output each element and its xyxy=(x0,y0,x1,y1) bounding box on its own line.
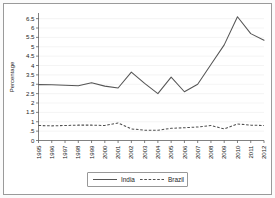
x-axis-ticks-group: 1995199619971998199920002001200220032004… xyxy=(35,141,268,160)
x-tick-label: 2012 xyxy=(260,145,267,159)
legend-label-india: India xyxy=(121,176,135,183)
x-tick-label: 2007 xyxy=(194,145,201,159)
y-tick-label: 6 xyxy=(31,24,35,31)
x-tick-label: 2004 xyxy=(154,145,161,159)
gridlines-group xyxy=(39,19,265,132)
y-tick-label: 5 xyxy=(31,43,35,50)
y-tick-label: 5.5 xyxy=(26,33,35,40)
y-tick-label: 4 xyxy=(31,62,35,69)
chart-legend: India Brazil xyxy=(88,173,188,187)
y-axis-ticks-group: 0.511.522.533.544.555.566.5 xyxy=(26,15,38,144)
x-tick-label: 2002 xyxy=(127,145,134,159)
series-line-india xyxy=(39,17,265,94)
x-tick-label: 2009 xyxy=(220,145,227,159)
series-line-brazil xyxy=(39,123,265,130)
x-tick-label: 1995 xyxy=(35,145,42,159)
x-tick-label: 2005 xyxy=(167,145,174,159)
x-tick-label: 2000 xyxy=(101,145,108,159)
x-tick-label: 1997 xyxy=(61,145,68,159)
y-tick-label: 4.5 xyxy=(26,52,35,59)
x-tick-label: 2001 xyxy=(114,145,121,159)
x-tick-label: 2008 xyxy=(207,145,214,159)
y-tick-label: 1 xyxy=(31,118,35,125)
y-tick-label: 2.5 xyxy=(26,90,35,97)
y-axis-title: Percentage xyxy=(9,61,15,92)
y-tick-label: 1.5 xyxy=(26,108,35,115)
x-tick-label: 2011 xyxy=(247,145,254,159)
legend-label-brazil: Brazil xyxy=(168,176,184,183)
x-tick-label: 2010 xyxy=(234,145,241,159)
x-tick-label: 2003 xyxy=(141,145,148,159)
line-chart: 0.511.522.533.544.555.566.5 199519961997… xyxy=(0,0,275,198)
y-tick-label: 3.5 xyxy=(26,71,35,78)
x-tick-label: 1999 xyxy=(88,145,95,159)
y-tick-label: .5 xyxy=(29,127,35,134)
x-tick-label: 1998 xyxy=(74,145,81,159)
x-tick-label: 2006 xyxy=(181,145,188,159)
y-tick-label: 2 xyxy=(31,99,35,106)
chart-figure: 0.511.522.533.544.555.566.5 199519961997… xyxy=(0,0,275,198)
y-tick-label: 0 xyxy=(31,137,35,144)
y-tick-label: 6.5 xyxy=(26,15,35,22)
x-tick-label: 1996 xyxy=(48,145,55,159)
y-tick-label: 3 xyxy=(31,80,35,87)
